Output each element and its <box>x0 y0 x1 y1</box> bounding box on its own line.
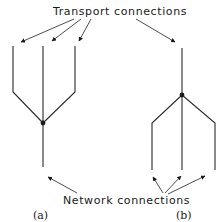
network-connections-label: Network connections <box>63 194 190 207</box>
network-arrows <box>48 176 205 194</box>
panel-a-tree <box>13 46 75 167</box>
transport-arrows <box>21 19 175 42</box>
panel-b-tree <box>152 48 215 170</box>
diagram-canvas: Transport connections Network connection… <box>0 0 221 222</box>
split-node-b <box>180 93 185 98</box>
caption-b: (b) <box>176 209 192 222</box>
multiplex-node-a <box>41 121 46 126</box>
transport-connections-label: Transport connections <box>52 5 187 18</box>
caption-a: (a) <box>33 209 48 222</box>
